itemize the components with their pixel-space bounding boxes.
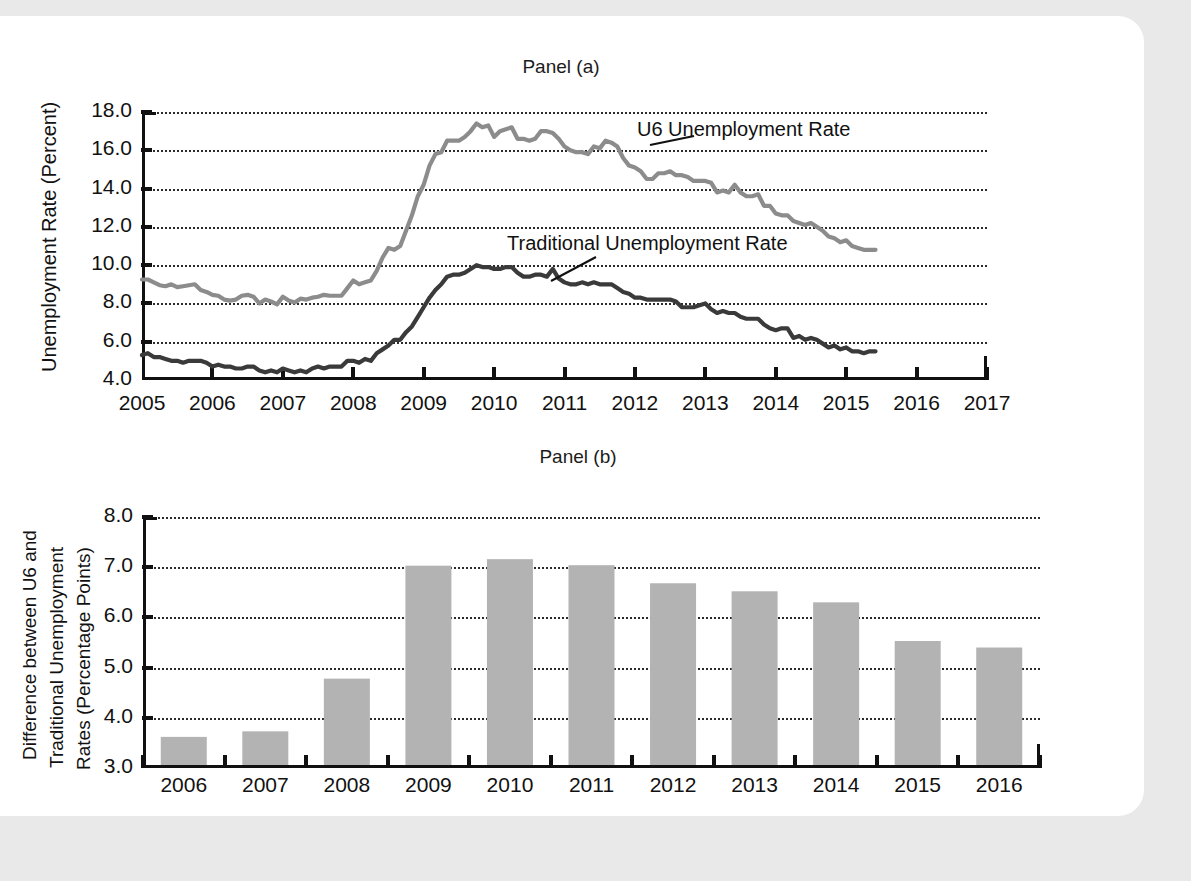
panel-b-frame-cap-topleft <box>143 517 157 520</box>
figure-area: Panel (a) Unemployment Rate (Percent) 4.… <box>0 0 1191 881</box>
panel-b-frame-cap-right <box>1037 744 1040 768</box>
panel-b-plot-frame <box>143 517 1040 768</box>
